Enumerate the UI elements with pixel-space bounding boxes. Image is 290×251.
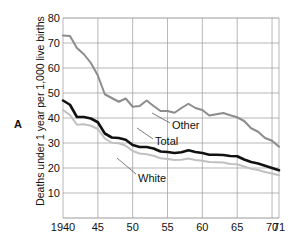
x-axis-ticks: 194045505560657071 xyxy=(0,221,290,241)
gridlines xyxy=(63,18,279,218)
x-tick-label: 50 xyxy=(127,221,139,233)
y-tick-label: 70 xyxy=(38,37,60,49)
x-tick-label: 60 xyxy=(196,221,208,233)
y-tick-label: 30 xyxy=(38,137,60,149)
y-tick-label: 10 xyxy=(38,187,60,199)
y-tick-label: 80 xyxy=(38,12,60,24)
x-tick-label: 71 xyxy=(273,221,285,233)
x-tick-label: 55 xyxy=(161,221,173,233)
x-tick-label: 45 xyxy=(92,221,104,233)
series-label-total: Total xyxy=(155,135,178,147)
y-tick-label: 60 xyxy=(38,62,60,74)
series-label-other: Other xyxy=(172,119,200,131)
y-tick-label: 50 xyxy=(38,87,60,99)
y-tick-label: 20 xyxy=(38,162,60,174)
y-axis-ticks: 1020304050607080 xyxy=(36,0,60,251)
data-lines xyxy=(63,36,279,176)
x-tick-label: 1940 xyxy=(51,221,75,233)
x-tick-label: 65 xyxy=(231,221,243,233)
panel-letter: A xyxy=(14,118,22,130)
y-tick-label: 40 xyxy=(38,112,60,124)
infant-mortality-chart: A Deaths under 1 year per 1,000 live bir… xyxy=(0,0,290,251)
series-label-white: White xyxy=(138,172,166,184)
